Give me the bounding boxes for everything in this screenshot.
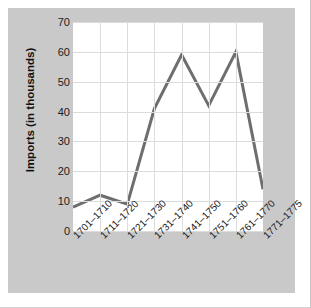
gridline-vertical: [127, 22, 128, 231]
gridline-horizontal: [73, 82, 263, 83]
y-axis-tick-labels: 010203040506070: [26, 22, 70, 231]
gridline-vertical: [236, 22, 237, 231]
y-axis-tick-label: 20: [30, 166, 70, 177]
y-axis-tick-label: 50: [30, 77, 70, 88]
chart-panel: Imports (in thousands) 010203040506070 1…: [8, 8, 295, 293]
plot-area: [73, 22, 263, 231]
gridline-vertical: [182, 22, 183, 231]
gridline-vertical: [154, 22, 155, 231]
series-polyline: [73, 52, 263, 207]
y-axis-tick-label: 40: [30, 107, 70, 118]
figure-card: Imports (in thousands) 010203040506070 1…: [0, 0, 311, 308]
y-axis-tick-label: 70: [30, 17, 70, 28]
x-axis-tick-labels: 1701–17101711–17201721–17301731–17401741…: [73, 233, 283, 291]
y-axis-tick-label: 0: [30, 226, 70, 237]
line-series-imports: [73, 22, 263, 231]
y-axis-tick-label: 10: [30, 196, 70, 207]
gridline-horizontal: [73, 22, 263, 23]
gridline-horizontal: [73, 52, 263, 53]
y-axis-tick-label: 60: [30, 47, 70, 58]
y-axis-tick-label: 30: [30, 136, 70, 147]
gridline-horizontal: [73, 171, 263, 172]
gridline-vertical: [100, 22, 101, 231]
gridline-vertical: [209, 22, 210, 231]
gridline-horizontal: [73, 112, 263, 113]
gridline-horizontal: [73, 141, 263, 142]
